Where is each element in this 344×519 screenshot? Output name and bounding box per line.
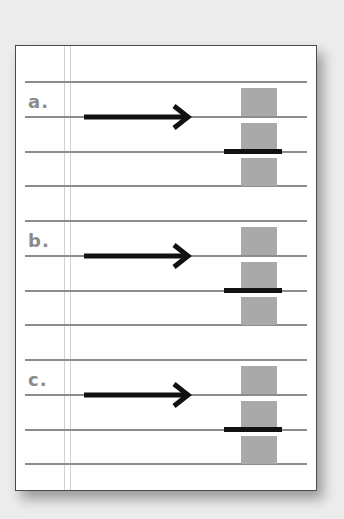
black-bar [224,427,282,432]
arrow-right-icon [82,242,194,270]
rule-line [25,359,307,361]
gray-block [241,297,277,325]
rule-line [25,220,307,222]
section-label: b. [28,230,50,251]
margin-line [70,46,71,490]
section-label: a. [28,91,49,112]
gray-block [241,123,277,151]
gray-block [241,436,277,464]
gray-block [241,158,277,186]
gray-block [241,262,277,290]
gray-block [241,227,277,255]
rule-line [25,81,307,83]
arrow-right-icon [82,381,194,409]
gray-block [241,366,277,394]
section-label: c. [28,369,48,390]
gray-block [241,401,277,429]
notebook-page: a. b. c. [15,45,317,491]
arrow-right-icon [82,103,194,131]
margin-line [64,46,65,490]
gray-block [241,88,277,116]
black-bar [224,149,282,154]
black-bar [224,288,282,293]
